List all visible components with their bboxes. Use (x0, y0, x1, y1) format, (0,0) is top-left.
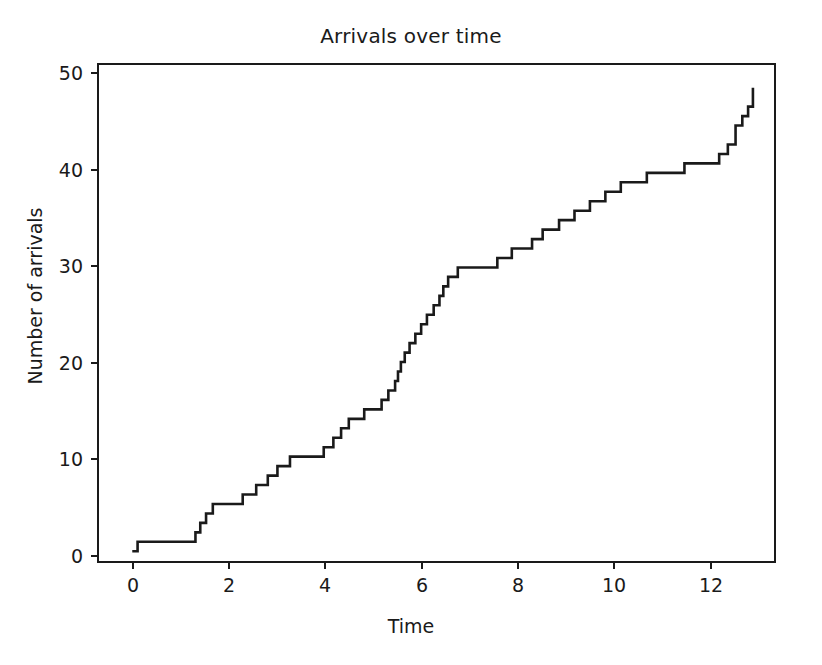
y-axis-label: Number of arrivals (24, 116, 46, 476)
ytick-mark-50 (91, 72, 97, 74)
xtick-mark-0 (132, 563, 134, 569)
xtick-label-2: 2 (199, 574, 259, 596)
xtick-mark-8 (517, 563, 519, 569)
xtick-label-8: 8 (488, 574, 548, 596)
xtick-mark-4 (324, 563, 326, 569)
ytick-mark-0 (91, 555, 97, 557)
ytick-label-0: 0 (23, 545, 83, 567)
xtick-mark-6 (421, 563, 423, 569)
ytick-mark-40 (91, 169, 97, 171)
ytick-label-50: 50 (23, 62, 83, 84)
plot-axes-area (97, 63, 776, 563)
xtick-label-6: 6 (392, 574, 452, 596)
figure-canvas: Arrivals over time 0 10 20 30 40 50 0 2 … (0, 0, 822, 665)
xtick-label-0: 0 (103, 574, 163, 596)
step-line-plot (99, 65, 778, 565)
xtick-mark-10 (613, 563, 615, 569)
ytick-mark-10 (91, 458, 97, 460)
ytick-mark-30 (91, 265, 97, 267)
ytick-mark-20 (91, 362, 97, 364)
xtick-label-4: 4 (295, 574, 355, 596)
xtick-label-12: 12 (681, 574, 741, 596)
x-axis-label: Time (0, 615, 822, 637)
chart-title: Arrivals over time (0, 24, 822, 48)
xtick-mark-2 (228, 563, 230, 569)
xtick-label-10: 10 (584, 574, 644, 596)
xtick-mark-12 (710, 563, 712, 569)
arrivals-step-line (132, 88, 753, 552)
